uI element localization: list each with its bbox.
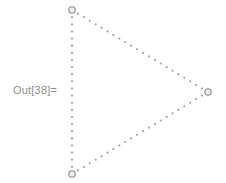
edge-dot [95,23,97,25]
edge-dot [71,159,73,161]
edge-dot [148,127,150,129]
right-vertex-marker [205,89,211,95]
edge-dot [148,55,150,57]
edge-dot [71,16,73,18]
edge-dot [136,134,138,136]
edge-dot [154,59,156,61]
notebook-output-cell: Out[38]= [0,0,226,183]
edge-dot [71,88,73,90]
edge-dot [71,123,73,125]
edge-dot [107,30,109,32]
edge-dot [71,23,73,25]
edge-dot [71,59,73,61]
edge-dot [101,27,103,29]
edge-dot [71,45,73,47]
edge-dot [95,159,97,161]
dotted-triangle-graphic[interactable] [0,0,226,183]
edge-dot [77,13,79,15]
edge-dot [160,63,162,65]
edge-dot [130,45,132,47]
edge-dot [71,137,73,139]
edge-dot [195,84,197,86]
edge-dot [71,109,73,111]
edge-dot [178,73,180,75]
edge-dot [189,80,191,82]
edge-dot [195,98,197,100]
edge-dot [89,162,91,164]
edge-dot [71,38,73,40]
edge-dot [142,130,144,132]
edge-dot [183,105,185,107]
edge-dot [130,137,132,139]
edge-dot [83,16,85,18]
edge-dot [71,73,73,75]
edge-dot [71,102,73,104]
edge-dot [172,70,174,72]
edge-dot [124,41,126,43]
edge-dot [201,88,203,90]
edge-dot [71,66,73,68]
edge-dot [178,109,180,111]
edge-dot [183,77,185,79]
edge-dot [154,123,156,125]
edge-dot [71,30,73,32]
edge-dot [89,20,91,22]
triangle-edge-dots [71,9,209,175]
edge-dot [112,148,114,150]
top-vertex-marker [69,7,75,13]
edge-dot [101,155,103,157]
edge-dot [166,66,168,68]
edge-dot [112,34,114,36]
edge-dot [189,102,191,104]
edge-dot [71,52,73,54]
graphic-output[interactable] [0,0,226,183]
bottom-vertex-marker [69,171,75,177]
edge-dot [77,170,79,172]
edge-dot [172,112,174,114]
edge-dot [71,130,73,132]
edge-dot [71,145,73,147]
edge-dot [201,95,203,97]
edge-dot [83,166,85,168]
edge-dot [71,80,73,82]
edge-dot [118,38,120,40]
edge-dot [118,145,120,147]
edge-dot [166,116,168,118]
edge-dot [107,152,109,154]
edge-dot [142,52,144,54]
edge-dot [124,141,126,143]
edge-dot [160,120,162,122]
edge-dot [71,166,73,168]
edge-dot [71,95,73,97]
edge-dot [71,152,73,154]
edge-dot [136,48,138,50]
edge-dot [71,116,73,118]
triangle-vertex-markers [69,7,211,177]
